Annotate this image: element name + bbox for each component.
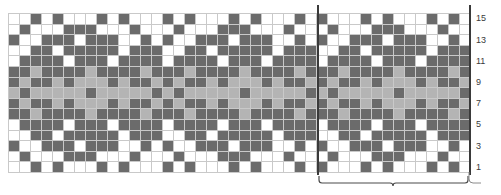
- stitch-cell: [163, 66, 174, 77]
- stitch-cell: [152, 77, 163, 88]
- stitch-cell: [130, 24, 141, 35]
- stitch-cell: [152, 66, 163, 77]
- stitch-cell: [196, 56, 207, 67]
- stitch-cell: [361, 130, 372, 141]
- stitch-cell: [350, 88, 361, 99]
- stitch-cell: [383, 24, 394, 35]
- stitch-cell: [427, 24, 438, 35]
- stitch-cell: [328, 141, 339, 152]
- stitch-cell: [405, 88, 416, 99]
- stitch-cell: [185, 77, 196, 88]
- stitch-cell: [64, 77, 75, 88]
- stitch-cell: [207, 45, 218, 56]
- stitch-cell: [119, 24, 130, 35]
- stitch-cell: [262, 151, 273, 162]
- stitch-cell: [240, 98, 251, 109]
- stitch-cell: [185, 24, 196, 35]
- stitch-cell: [229, 162, 240, 173]
- row-number-label: 1: [476, 162, 496, 172]
- stitch-cell: [240, 77, 251, 88]
- stitch-cell: [438, 14, 449, 25]
- stitch-cell: [273, 119, 284, 130]
- stitch-cell: [20, 45, 31, 56]
- stitch-cell: [427, 98, 438, 109]
- stitch-cell: [295, 130, 306, 141]
- stitch-cell: [273, 35, 284, 46]
- stitch-cell: [449, 56, 460, 67]
- stitch-cell: [207, 109, 218, 120]
- stitch-cell: [31, 24, 42, 35]
- stitch-cell: [97, 88, 108, 99]
- stitch-cell: [163, 151, 174, 162]
- stitch-cell: [284, 98, 295, 109]
- stitch-cell: [31, 130, 42, 141]
- stitch-cell: [350, 162, 361, 173]
- stitch-cell: [273, 130, 284, 141]
- stitch-cell: [273, 66, 284, 77]
- stitch-cell: [416, 109, 427, 120]
- stitch-cell: [42, 77, 53, 88]
- stitch-cell: [163, 45, 174, 56]
- stitch-cell: [438, 24, 449, 35]
- stitch-cell: [339, 14, 350, 25]
- stitch-cell: [119, 119, 130, 130]
- stitch-cell: [42, 119, 53, 130]
- stitch-cell: [251, 109, 262, 120]
- stitch-cell: [119, 141, 130, 152]
- stitch-cell: [196, 45, 207, 56]
- stitch-cell: [328, 77, 339, 88]
- stitch-cell: [273, 56, 284, 67]
- stitch-cell: [339, 35, 350, 46]
- stitch-cell: [218, 98, 229, 109]
- stitch-cell: [438, 119, 449, 130]
- stitch-cell: [405, 162, 416, 173]
- stitch-cell: [339, 56, 350, 67]
- stitch-cell: [108, 141, 119, 152]
- stitch-cell: [240, 151, 251, 162]
- stitch-cell: [42, 162, 53, 173]
- stitch-cell: [152, 130, 163, 141]
- stitch-cell: [284, 56, 295, 67]
- stitch-cell: [53, 88, 64, 99]
- stitch-cell: [20, 14, 31, 25]
- chart-row: [9, 151, 471, 162]
- stitch-cell: [108, 98, 119, 109]
- stitch-cell: [53, 151, 64, 162]
- stitch-cell: [427, 77, 438, 88]
- stitch-cell: [284, 162, 295, 173]
- stitch-cell: [75, 88, 86, 99]
- chart-row: [9, 162, 471, 173]
- stitch-cell: [295, 24, 306, 35]
- stitch-cell: [394, 119, 405, 130]
- stitch-cell: [53, 130, 64, 141]
- stitch-cell: [372, 119, 383, 130]
- stitch-cell: [141, 24, 152, 35]
- stitch-cell: [86, 56, 97, 67]
- stitch-cell: [372, 14, 383, 25]
- stitch-cell: [31, 119, 42, 130]
- stitch-cell: [174, 14, 185, 25]
- stitch-cell: [361, 35, 372, 46]
- stitch-cell: [416, 66, 427, 77]
- stitch-cell: [405, 141, 416, 152]
- stitch-cell: [328, 14, 339, 25]
- stitch-cell: [163, 14, 174, 25]
- stitch-cell: [273, 88, 284, 99]
- stitch-cell: [53, 14, 64, 25]
- edge-tail-icon: [468, 172, 482, 186]
- stitch-cell: [207, 56, 218, 67]
- stitch-cell: [75, 162, 86, 173]
- stitch-cell: [361, 77, 372, 88]
- stitch-cell: [273, 45, 284, 56]
- stitch-cell: [152, 141, 163, 152]
- stitch-cell: [350, 141, 361, 152]
- stitch-cell: [383, 162, 394, 173]
- stitch-cell: [295, 119, 306, 130]
- stitch-cell: [273, 24, 284, 35]
- stitch-cell: [251, 88, 262, 99]
- stitch-cell: [141, 130, 152, 141]
- stitch-cell: [218, 24, 229, 35]
- stitch-cell: [229, 35, 240, 46]
- stitch-cell: [75, 66, 86, 77]
- stitch-cell: [449, 130, 460, 141]
